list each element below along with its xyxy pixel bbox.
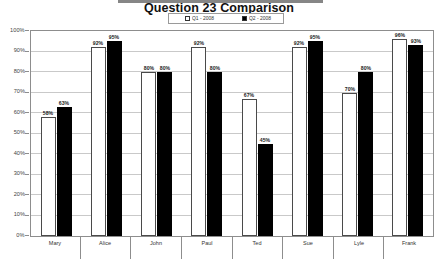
y-axis-tick-label: 60%: [14, 109, 25, 115]
bar-q2: 80%: [207, 72, 222, 236]
y-axis-tick-label: 100%: [11, 27, 25, 33]
bar-chart: Question 23 Comparison Q1 - 2008 Q2 - 20…: [0, 0, 438, 260]
bar-value-label: 80%: [159, 65, 169, 71]
bar-value-label: 67%: [244, 92, 254, 98]
x-axis-tick-label: Paul: [201, 240, 212, 246]
legend-swatch-q1: [185, 16, 190, 21]
bar-value-label: 95%: [109, 34, 119, 40]
y-axis-tick-label: 70%: [14, 88, 25, 94]
y-axis-tick: [25, 71, 29, 72]
bar-q2: 63%: [57, 107, 72, 236]
x-axis-cell: Sue: [283, 237, 334, 259]
legend-item-q2: Q2 - 2008: [242, 16, 268, 21]
bar-q1: 92%: [91, 47, 106, 236]
x-axis-cell: Mary: [30, 237, 81, 259]
bars-container: 58%63%92%95%80%80%92%80%67%45%92%95%70%8…: [31, 31, 433, 236]
y-axis-tick: [25, 174, 29, 175]
x-axis-tick-label: John: [150, 240, 162, 246]
y-axis-tick: [25, 30, 29, 31]
bar-q1: 70%: [342, 93, 357, 237]
x-axis-cell: Lyle: [334, 237, 385, 259]
bar-q2: 95%: [107, 41, 122, 236]
x-axis-cell: Paul: [182, 237, 233, 259]
y-axis-tick-label: 30%: [14, 170, 25, 176]
y-axis-tick: [25, 92, 29, 93]
bar-group: 92%95%: [81, 31, 131, 236]
x-axis-tick-label: Lyle: [354, 240, 364, 246]
y-axis-tick: [25, 194, 29, 195]
y-axis-tick-label: 10%: [14, 211, 25, 217]
bar-q2: 80%: [358, 72, 373, 236]
bar-q2: 93%: [408, 45, 423, 236]
y-axis-tick: [25, 112, 29, 113]
bar-value-label: 63%: [59, 100, 69, 106]
bar-value-label: 45%: [260, 137, 270, 143]
bar-value-label: 96%: [395, 32, 405, 38]
x-axis-tick-label: Ted: [253, 240, 262, 246]
y-axis-tick: [25, 153, 29, 154]
bar-q2: 95%: [308, 41, 323, 236]
legend-swatch-q2: [242, 16, 247, 21]
bar-group: 67%45%: [232, 31, 282, 236]
bar-value-label: 80%: [210, 65, 220, 71]
bar-value-label: 92%: [194, 40, 204, 46]
bar-group: 96%93%: [383, 31, 433, 236]
y-axis: 100%90%80%70%60%50%40%30%20%10%0%: [0, 30, 28, 237]
x-axis: MaryAliceJohnPaulTedSueLyleFrank: [30, 237, 434, 259]
legend-item-q1: Q1 - 2008: [185, 16, 211, 21]
y-axis-tick-label: 40%: [14, 150, 25, 156]
y-axis-tick: [25, 133, 29, 134]
bar-group: 58%63%: [31, 31, 81, 236]
chart-legend: Q1 - 2008 Q2 - 2008: [168, 13, 284, 24]
x-axis-tick-label: Alice: [99, 240, 111, 246]
bar-value-label: 80%: [360, 65, 370, 71]
x-axis-tick-label: Sue: [303, 240, 313, 246]
y-axis-tick-label: 0%: [17, 232, 25, 238]
x-axis-cell: Alice: [81, 237, 132, 259]
bar-value-label: 93%: [411, 38, 421, 44]
y-axis-tick-label: 50%: [14, 129, 25, 135]
bar-q1: 58%: [41, 117, 56, 236]
legend-label-q2: Q2 - 2008: [249, 16, 271, 22]
x-axis-tick-label: Frank: [402, 240, 416, 246]
bar-q2: 80%: [157, 72, 172, 236]
bar-q1: 96%: [392, 39, 407, 236]
y-axis-tick-label: 90%: [14, 47, 25, 53]
bar-group: 92%95%: [282, 31, 332, 236]
bar-group: 70%80%: [333, 31, 383, 236]
y-axis-tick: [25, 215, 29, 216]
bar-group: 92%80%: [182, 31, 232, 236]
bar-q1: 92%: [292, 47, 307, 236]
y-axis-tick: [25, 235, 29, 236]
bar-q2: 45%: [258, 144, 273, 236]
x-axis-cell: Frank: [384, 237, 434, 259]
bar-q1: 67%: [242, 99, 257, 236]
bar-q1: 92%: [191, 47, 206, 236]
bar-value-label: 92%: [294, 40, 304, 46]
y-axis-tick: [25, 51, 29, 52]
x-axis-cell: John: [131, 237, 182, 259]
bar-value-label: 92%: [93, 40, 103, 46]
bar-q1: 80%: [141, 72, 156, 236]
bar-value-label: 80%: [143, 65, 153, 71]
bar-value-label: 70%: [344, 86, 354, 92]
bar-value-label: 58%: [43, 110, 53, 116]
y-axis-tick-label: 20%: [14, 191, 25, 197]
x-axis-cell: Ted: [233, 237, 284, 259]
legend-label-q1: Q1 - 2008: [192, 16, 214, 22]
bar-value-label: 95%: [310, 34, 320, 40]
bar-group: 80%80%: [132, 31, 182, 236]
x-axis-tick-label: Mary: [49, 240, 61, 246]
y-axis-tick-label: 80%: [14, 68, 25, 74]
